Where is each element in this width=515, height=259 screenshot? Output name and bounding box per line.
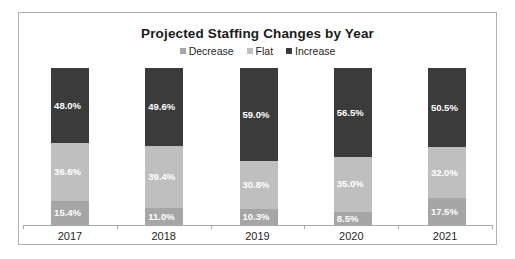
legend-item-label: Decrease [189,46,234,57]
bar-segment-flat[interactable]: 39.4% [145,146,183,208]
stacked-bar[interactable]: 50.5%32.0%17.5% [428,68,466,225]
chart-title: Projected Staffing Changes by Year [19,26,496,41]
plot-area: 48.0%36.6%15.4%49.6%39.4%11.0%59.0%30.8%… [19,56,498,225]
bar-segment-data-label: 36.6% [51,167,81,177]
bar-segment-data-label: 39.4% [145,172,175,182]
bar-slot: 49.6%39.4%11.0% [117,56,211,225]
bar-slot: 50.5%32.0%17.5% [400,56,494,225]
bar-segment-decrease[interactable]: 15.4% [51,201,89,225]
category-label-2020: 2020 [304,229,398,245]
bar-segment-data-label: 35.0% [334,179,364,189]
legend-swatch-icon [247,48,253,54]
stacked-bar[interactable]: 56.5%35.0%8.5% [334,68,372,225]
bars-row: 48.0%36.6%15.4%49.6%39.4%11.0%59.0%30.8%… [23,56,494,225]
bar-segment-data-label: 56.5% [334,108,364,118]
bar-segment-data-label: 50.5% [428,103,458,113]
bar-segment-increase[interactable]: 49.6% [145,68,183,146]
bar-segment-flat[interactable]: 36.6% [51,143,89,200]
stacked-bar[interactable]: 48.0%36.6%15.4% [51,68,89,225]
bar-segment-data-label: 11.0% [145,212,174,222]
legend-item-increase[interactable]: Increase [286,46,335,57]
bar-segment-flat[interactable]: 30.8% [240,161,278,209]
legend-item-decrease[interactable]: Decrease [180,46,234,57]
category-axis-labels: 20172018201920202021 [23,229,492,245]
legend-swatch-icon [180,48,186,54]
bar-segment-flat[interactable]: 32.0% [428,147,466,197]
bar-segment-increase[interactable]: 50.5% [428,68,466,147]
stacked-bar[interactable]: 49.6%39.4%11.0% [145,68,183,225]
category-label-2021: 2021 [398,229,492,245]
axis-tick [492,225,493,229]
bar-slot: 59.0%30.8%10.3% [211,56,305,225]
bar-segment-data-label: 30.8% [240,180,270,190]
legend-item-flat[interactable]: Flat [247,46,274,57]
bar-segment-data-label: 49.6% [145,102,175,112]
bar-segment-increase[interactable]: 56.5% [334,68,372,157]
bar-segment-decrease[interactable]: 17.5% [428,198,466,225]
category-label-2019: 2019 [211,229,305,245]
bar-segment-decrease[interactable]: 11.0% [145,208,183,225]
bar-segment-flat[interactable]: 35.0% [334,157,372,212]
bar-segment-data-label: 17.5% [428,207,458,217]
bar-segment-decrease[interactable]: 8.5% [334,212,372,225]
legend-item-label: Increase [295,46,335,57]
chart-panel: Projected Staffing Changes by Year Decre… [18,12,497,245]
bar-segment-data-label: 32.0% [428,168,458,178]
category-axis-line [23,225,492,226]
legend-item-label: Flat [256,46,274,57]
stacked-bar[interactable]: 59.0%30.8%10.3% [240,68,278,225]
bar-segment-data-label: 48.0% [51,101,81,111]
chart-legend: DecreaseFlatIncrease [19,46,496,57]
bar-segment-data-label: 59.0% [240,110,270,120]
bar-slot: 48.0%36.6%15.4% [23,56,117,225]
bar-segment-increase[interactable]: 59.0% [240,68,278,161]
bar-segment-increase[interactable]: 48.0% [51,68,89,143]
bar-segment-data-label: 8.5% [334,214,359,224]
bar-segment-data-label: 15.4% [51,208,81,218]
legend-swatch-icon [286,48,292,54]
category-label-2017: 2017 [23,229,117,245]
bar-slot: 56.5%35.0%8.5% [306,56,400,225]
bar-segment-data-label: 10.3% [240,212,270,222]
category-label-2018: 2018 [117,229,211,245]
bar-segment-decrease[interactable]: 10.3% [240,209,278,225]
